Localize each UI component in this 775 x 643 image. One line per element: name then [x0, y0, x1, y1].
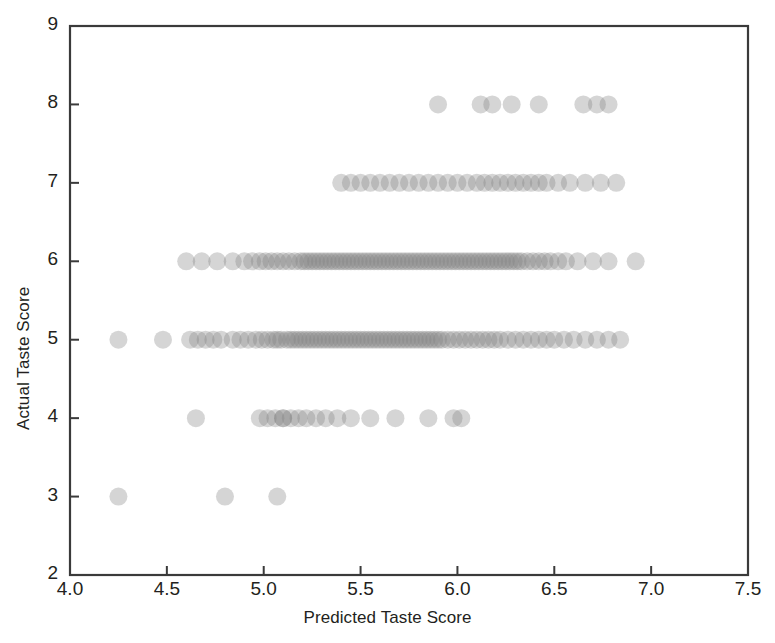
scatter-point	[530, 95, 548, 113]
scatter-point	[342, 409, 360, 427]
scatter-point	[607, 174, 625, 192]
x-axis-title: Predicted Taste Score	[0, 608, 775, 628]
y-axis-title: Actual Taste Score	[14, 287, 34, 430]
x-tick-label: 4.5	[137, 578, 197, 600]
plot-frame	[70, 26, 748, 575]
scatter-point	[361, 409, 379, 427]
scatter-point	[154, 331, 172, 349]
y-tick-label: 7	[28, 170, 58, 192]
y-tick-label: 6	[28, 248, 58, 270]
x-tick-label: 6.0	[427, 578, 487, 600]
y-tick-label: 9	[28, 13, 58, 35]
scatter-point	[216, 488, 234, 506]
x-tick-label: 5.5	[331, 578, 391, 600]
scatter-point	[452, 409, 470, 427]
data-points	[109, 95, 644, 505]
scatter-point	[627, 252, 645, 270]
scatter-point	[429, 95, 447, 113]
scatter-point	[109, 488, 127, 506]
scatter-point	[592, 174, 610, 192]
scatter-point	[187, 409, 205, 427]
scatter-point	[193, 252, 211, 270]
scatter-point	[386, 409, 404, 427]
plot-canvas	[0, 0, 775, 643]
x-tick-label: 4.0	[40, 578, 100, 600]
scatter-point	[611, 331, 629, 349]
scatter-point	[569, 252, 587, 270]
scatter-point	[208, 252, 226, 270]
x-tick-label: 5.0	[234, 578, 294, 600]
y-tick-label: 8	[28, 91, 58, 113]
scatter-point	[268, 488, 286, 506]
y-tick-label: 3	[28, 484, 58, 506]
scatter-point	[419, 409, 437, 427]
scatter-point	[177, 252, 195, 270]
x-tick-label: 6.5	[524, 578, 584, 600]
scatter-point	[600, 252, 618, 270]
scatter-point	[109, 331, 127, 349]
scatter-point	[503, 95, 521, 113]
scatter-point	[561, 174, 579, 192]
scatter-point	[576, 174, 594, 192]
scatter-plot-figure: 23456789 4.04.55.05.56.06.57.07.5 Actual…	[0, 0, 775, 643]
x-tick-label: 7.0	[621, 578, 681, 600]
scatter-point	[584, 252, 602, 270]
scatter-point	[483, 95, 501, 113]
x-tick-label: 7.5	[718, 578, 775, 600]
scatter-point	[600, 95, 618, 113]
